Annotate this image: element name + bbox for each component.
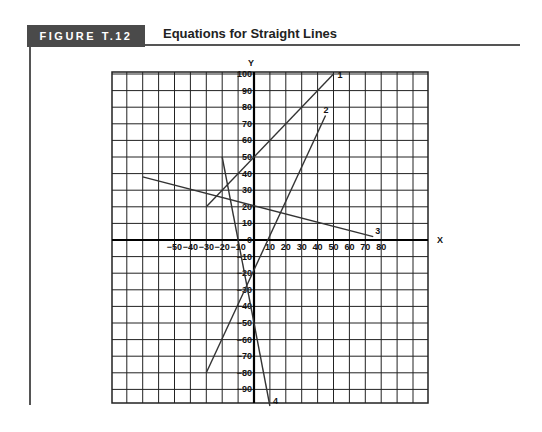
y-tick-label: −60 [237,335,252,345]
series-label-2: 2 [324,105,329,115]
x-tick-label: −20 [215,242,230,252]
y-tick-label: 70 [242,119,252,129]
x-tick-label: 40 [313,242,323,252]
series-label-3: 3 [375,226,380,236]
x-tick-label: 50 [328,242,338,252]
y-tick-label: 80 [242,102,252,112]
y-tick-label: −90 [237,384,252,394]
x-axis-label: X [437,235,443,245]
y-tick-label: 90 [242,86,252,96]
x-tick-label: −40 [183,242,198,252]
y-axis-label: Y [248,58,254,68]
line-chart: YX1009080706050403020100−10−20−30−40−50−… [0,0,542,432]
y-tick-label: −70 [237,351,252,361]
y-tick-label: 60 [242,135,252,145]
y-tick-label: 30 [242,185,252,195]
y-tick-label: −80 [237,368,252,378]
x-tick-label: 20 [281,242,291,252]
y-tick-label: 100 [237,69,252,79]
x-tick-label: −50 [167,242,182,252]
x-tick-label: 60 [344,242,354,252]
x-tick-label: −30 [199,242,214,252]
series-label-1: 1 [338,70,343,80]
y-tick-label: −50 [237,318,252,328]
y-tick-label: 40 [242,169,252,179]
y-tick-label: 10 [242,218,252,228]
series-label-4: 4 [273,396,278,406]
x-tick-label: 30 [297,242,307,252]
x-tick-label: 80 [376,242,386,252]
y-tick-label: 0 [247,235,252,245]
x-tick-label: 70 [360,242,370,252]
y-tick-label: −10 [237,252,252,262]
